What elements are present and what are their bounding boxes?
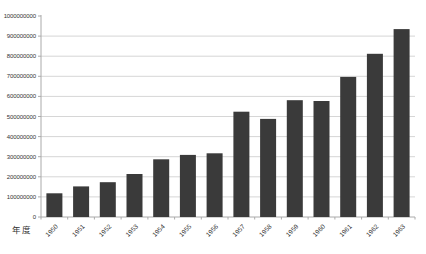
bar [287, 100, 303, 217]
x-tick-label: 1962 [364, 222, 379, 237]
bar [260, 119, 276, 217]
bar [314, 101, 330, 217]
x-axis-title: 年度 [12, 223, 32, 235]
bar [233, 112, 249, 217]
y-tick-label: 400000000 [7, 134, 37, 140]
y-tick-label: 0 [33, 214, 37, 220]
bar [73, 186, 89, 217]
x-tick-label: 1961 [338, 222, 353, 237]
x-tick-label: 1963 [391, 222, 406, 237]
y-tick-label: 700000000 [7, 73, 37, 79]
x-tick-label: 1955 [177, 222, 192, 237]
chart-canvas: 0100000000200000000300000000400000000500… [0, 0, 426, 254]
x-tick-label: 1956 [204, 222, 219, 237]
x-tick-label: 1958 [258, 222, 273, 237]
bar [367, 54, 383, 217]
bar [46, 193, 62, 217]
y-tick-label: 800000000 [7, 53, 37, 59]
bar [340, 77, 356, 217]
bar-chart: 0100000000200000000300000000400000000500… [0, 0, 426, 254]
x-tick-label: 1951 [71, 222, 86, 237]
y-tick-label: 300000000 [7, 154, 37, 160]
y-tick-label: 500000000 [7, 114, 37, 120]
bar [207, 153, 223, 217]
x-tick-label: 1952 [97, 222, 112, 237]
y-tick-label: 900000000 [7, 33, 37, 39]
y-tick-label: 1000000000 [4, 13, 37, 19]
bar [127, 174, 143, 217]
x-tick-label: 1957 [231, 222, 246, 237]
y-tick-label: 200000000 [7, 174, 37, 180]
bar [153, 159, 169, 217]
x-tick-label: 1954 [151, 222, 166, 237]
x-tick-label: 1953 [124, 222, 139, 237]
x-tick-label: 1959 [284, 222, 299, 237]
y-tick-label: 100000000 [7, 194, 37, 200]
y-tick-label: 600000000 [7, 93, 37, 99]
bar [394, 29, 410, 217]
x-tick-label: 1950 [44, 222, 59, 237]
bar [180, 155, 196, 217]
bar [100, 182, 116, 217]
x-tick-label: 1960 [311, 222, 326, 237]
